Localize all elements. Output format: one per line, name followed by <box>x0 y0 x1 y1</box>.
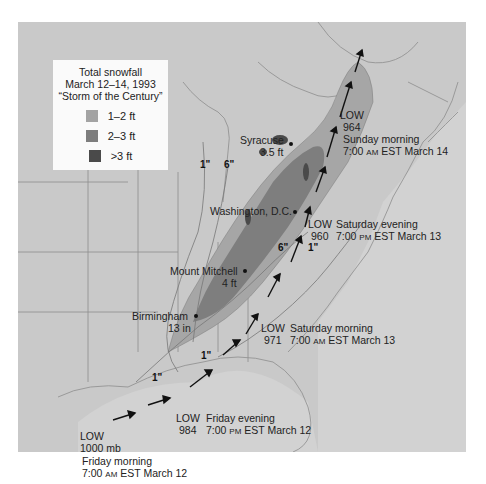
storm-time-4: Saturday evening7:00 PM EST March 13 <box>336 218 441 244</box>
city-mount-mitchell-value: 4 ft <box>222 277 237 289</box>
city-birmingham: Birmingham <box>132 310 188 322</box>
isoline-label: 1" <box>200 159 210 170</box>
legend-title-2: March 12–14, 1993 <box>53 78 168 90</box>
storm-label-4: LOW960 <box>308 218 332 242</box>
snowfall-map: Total snowfall March 12–14, 1993 “Storm … <box>18 22 466 452</box>
storm-time-2: Friday evening7:00 PM EST March 12 <box>206 412 311 438</box>
city-syracuse: Syracuse <box>240 134 284 146</box>
city-birmingham-value: 13 in <box>168 322 191 334</box>
isoline-label: 6" <box>278 242 288 253</box>
legend-item: >3 ft <box>53 150 168 162</box>
isoline-label: 1" <box>201 350 211 361</box>
city-syracuse-value: 3.5 ft <box>260 146 283 158</box>
swatch-1-2ft <box>86 110 98 122</box>
legend-label: 1–2 ft <box>108 110 136 122</box>
legend-title-1: Total snowfall <box>53 66 168 78</box>
storm-label-1: LOW1000 mb <box>80 430 121 452</box>
legend-title-3: “Storm of the Century” <box>53 90 168 102</box>
isoline-label: 1" <box>152 372 162 383</box>
city-washington: Washington, D.C. <box>210 205 292 217</box>
legend-item: 2–3 ft <box>53 130 168 142</box>
storm-label-3: LOW971 <box>261 322 285 346</box>
legend-item: 1–2 ft <box>53 110 168 122</box>
storm-label-5: LOW964Sunday morning7:00 AM EST March 14 <box>340 109 448 159</box>
storm-time-3: Saturday morning7:00 AM EST March 13 <box>290 322 395 348</box>
legend-label: >3 ft <box>111 150 133 162</box>
city-mount-mitchell: Mount Mitchell <box>170 265 238 277</box>
swatch-2-3ft <box>86 130 98 142</box>
isoline-label: 6" <box>224 159 234 170</box>
storm-time-1: Friday morning7:00 AM EST March 12 <box>82 455 187 481</box>
isoline-label: 1" <box>308 242 318 253</box>
legend: Total snowfall March 12–14, 1993 “Storm … <box>53 60 168 170</box>
storm-label-2: LOW984 <box>176 412 200 436</box>
swatch-gt3ft <box>89 150 101 162</box>
legend-label: 2–3 ft <box>108 130 136 142</box>
